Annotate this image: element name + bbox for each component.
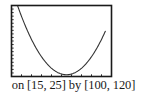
plot-frame <box>12 6 112 77</box>
window-caption: on [15, 25] by [100, 120] <box>0 78 147 93</box>
parabola-curve <box>18 6 106 75</box>
graph-window <box>0 0 147 78</box>
